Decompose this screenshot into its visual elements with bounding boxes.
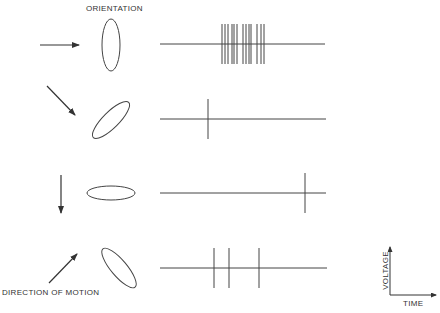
orientation-ellipse	[97, 244, 141, 293]
stimulus-row-2	[47, 86, 326, 143]
orientation-label: ORIENTATION	[86, 4, 143, 13]
orientation-ellipse	[88, 97, 135, 144]
orientation-ellipse	[102, 19, 120, 71]
stimulus-row-3	[61, 173, 326, 213]
stimulus-row-4	[49, 244, 327, 293]
direction-arrow-icon	[47, 86, 75, 115]
voltage-axis-label: VOLTAGE	[381, 251, 390, 290]
direction-of-motion-label: DIRECTION OF MOTION	[2, 288, 99, 297]
axes-key	[390, 247, 436, 295]
direction-arrow-icon	[49, 254, 77, 283]
stimulus-rows	[40, 19, 327, 292]
orientation-ellipse	[87, 186, 135, 200]
stimulus-row-1	[40, 19, 325, 71]
receptive-field-diagram	[0, 0, 440, 313]
time-axis-label: TIME	[403, 299, 423, 308]
